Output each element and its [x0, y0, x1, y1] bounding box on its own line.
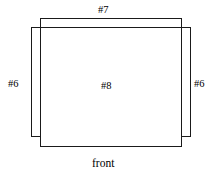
- right-side-panel-label: #6: [194, 79, 205, 90]
- orientation-label: front: [92, 158, 114, 170]
- top-panel-label: #7: [98, 5, 109, 16]
- left-side-panel-label: #6: [8, 79, 19, 90]
- front-panel-label: #8: [101, 81, 112, 92]
- diagram-canvas: [0, 0, 223, 180]
- panel-assembly-diagram: #7 #6 #6 #8 front: [0, 0, 223, 180]
